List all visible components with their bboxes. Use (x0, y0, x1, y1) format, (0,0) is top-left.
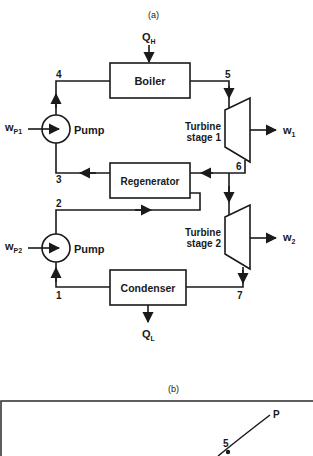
svg-text:Boiler: Boiler (134, 75, 166, 87)
svg-text:Pump: Pump (74, 243, 105, 255)
work-wp1-label: wP1 (4, 121, 22, 135)
line-2 (56, 193, 200, 234)
condenser: Condenser (110, 270, 186, 305)
svg-text:Turbine: Turbine (185, 227, 221, 238)
state-2: 2 (56, 198, 62, 209)
state-7: 7 (237, 290, 243, 301)
isobar-p-curve (218, 415, 270, 456)
caption-b: (b) (168, 384, 179, 394)
line-3 (56, 143, 110, 173)
line-5 (190, 81, 229, 111)
svg-text:Regenerator: Regenerator (121, 176, 180, 187)
line-1 (56, 262, 110, 287)
heat-out-label: QL (142, 328, 156, 342)
regenerative-rankine-diagram: (a) QH Boiler 4 5 Turbine stage 1 w1 Pum… (0, 0, 313, 456)
state-1: 1 (56, 290, 62, 301)
turbine-stage-1: Turbine stage 1 (185, 98, 250, 162)
state-4: 4 (56, 69, 62, 80)
svg-text:stage 2: stage 2 (187, 238, 222, 249)
state-5-point-label: 5 (223, 438, 229, 449)
state-6: 6 (236, 161, 242, 172)
state-3: 3 (56, 174, 62, 185)
boiler: Boiler (110, 63, 190, 98)
heat-in-label: QH (142, 31, 156, 45)
state-5: 5 (225, 69, 231, 80)
caption-a: (a) (148, 10, 159, 20)
panel-b-frame (1, 401, 313, 456)
state-5-point (226, 450, 230, 454)
svg-text:Condenser: Condenser (121, 282, 176, 294)
line-7 (186, 267, 243, 287)
line-4 (56, 81, 110, 115)
svg-text:Turbine: Turbine (185, 121, 221, 132)
turbine-stage-2: Turbine stage 2 (185, 205, 250, 269)
svg-text:Pump: Pump (74, 124, 105, 136)
isobar-p-label: P (273, 409, 280, 420)
work-w2-label: w2 (282, 231, 296, 245)
work-w1-label: w1 (282, 124, 296, 138)
work-wp2-label: wP2 (4, 240, 22, 254)
svg-text:stage 1: stage 1 (187, 132, 222, 143)
regenerator: Regenerator (110, 163, 190, 198)
